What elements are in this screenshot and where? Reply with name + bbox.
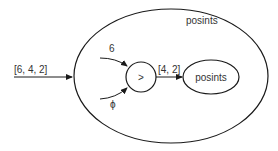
tail-arrow [100, 88, 127, 99]
output-stream-label: [4, 2] [158, 64, 180, 75]
head-label: 6 [109, 43, 115, 54]
head-arrow [100, 58, 127, 66]
inner-process-label: posints [195, 72, 227, 83]
outer-process-label: posints [186, 15, 218, 26]
tail-label: ϕ [110, 99, 116, 110]
diagram-canvas: posints [6, 4, 2] > 6 ϕ [4, 2] posints [0, 0, 278, 151]
input-stream-label: [6, 4, 2] [14, 64, 48, 75]
operator-label: > [138, 72, 144, 83]
